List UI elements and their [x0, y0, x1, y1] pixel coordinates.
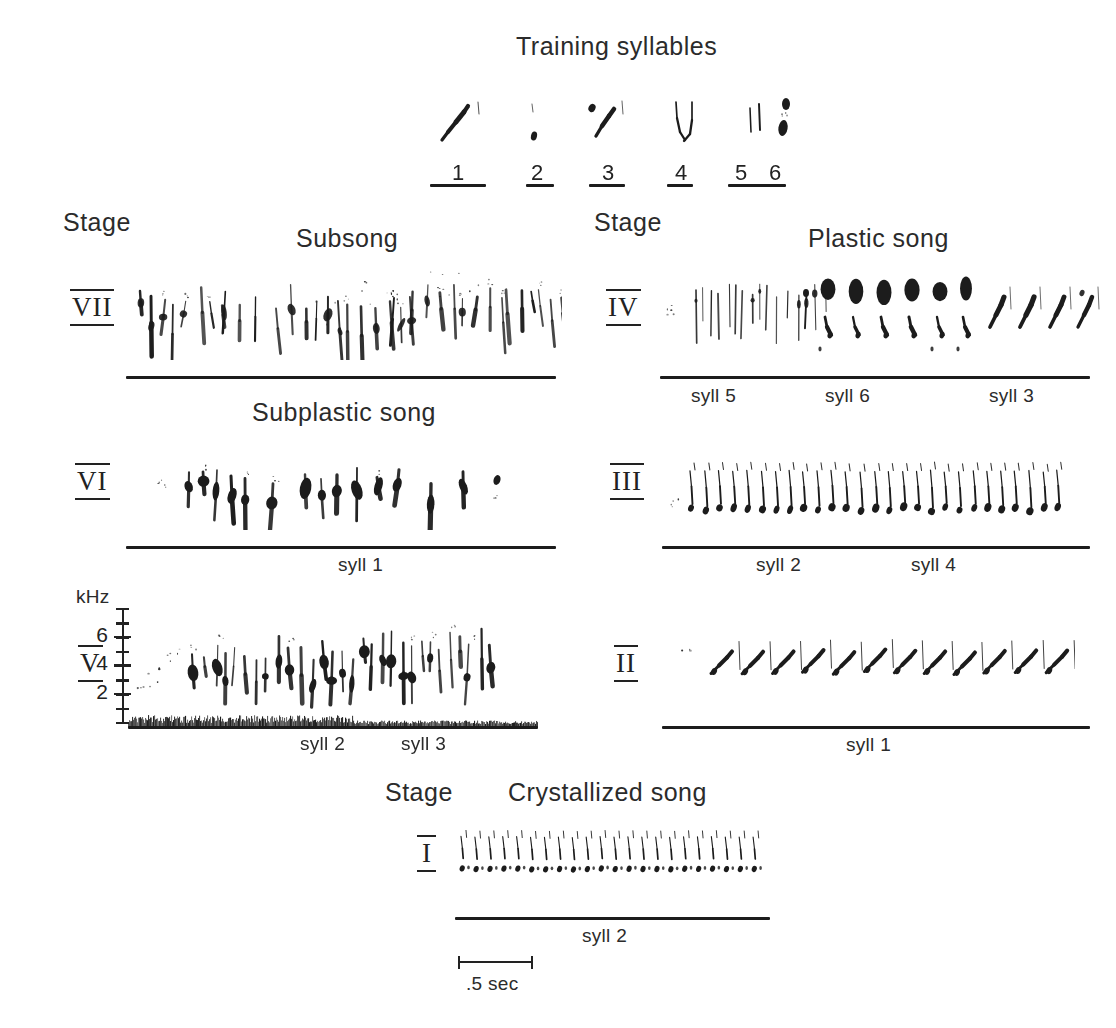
stage-roman-vi: VI — [75, 463, 110, 500]
frequency-axis-label: 2 — [82, 680, 108, 704]
stage-iii-syll-label-2: syll 2 — [756, 554, 801, 576]
left-stage-heading: Stage — [63, 208, 131, 237]
stage-ii-syll-label-1: syll 1 — [846, 734, 891, 756]
stage-v-noise-floor — [128, 713, 538, 727]
stage-i-syll-label-2: syll 2 — [582, 925, 627, 947]
khz-axis-unit-label: kHz — [76, 586, 110, 608]
training-syllable-number-3: 3 — [602, 160, 614, 186]
plastic-song-heading: Plastic song — [808, 224, 949, 253]
stage-v-duration-bar — [128, 726, 538, 729]
stage-label-i: I — [417, 840, 436, 867]
stage-label-vii: VII — [70, 294, 114, 321]
stage-label-iii: III — [610, 468, 644, 495]
training-syllable-rule-56 — [728, 184, 786, 187]
frequency-axis-tick — [116, 708, 129, 710]
training-syllables-spectrogram — [420, 92, 800, 162]
stage-ii-spectrogram — [675, 625, 1075, 705]
stage-vi-syll-label-1: syll 1 — [338, 554, 383, 576]
frequency-axis-tick — [116, 651, 129, 653]
stage-label-ii: II — [614, 650, 638, 677]
stage-roman-iii: III — [610, 463, 644, 500]
training-syllable-rule-1 — [430, 184, 486, 187]
frequency-axis-tick — [116, 608, 129, 610]
training-syllable-number-5: 5 — [735, 160, 747, 186]
training-syllable-number-6: 6 — [769, 160, 781, 186]
stage-vii-duration-bar — [126, 376, 556, 379]
stage-iv-syll-label-6: syll 6 — [825, 385, 870, 407]
stage-iv-syll-label-3: syll 3 — [989, 385, 1034, 407]
stage-roman-i: I — [417, 835, 436, 872]
stage-roman-vii: VII — [70, 289, 114, 326]
training-syllable-rule-4 — [667, 184, 693, 187]
frequency-axis-label: 4 — [82, 651, 108, 675]
stage-i-spectrogram — [455, 827, 775, 889]
training-syllable-rule-3 — [589, 184, 625, 187]
frequency-axis-tick-major — [114, 693, 131, 696]
training-syllable-number-4: 4 — [675, 160, 687, 186]
stage-iii-spectrogram — [668, 455, 1088, 530]
stage-v-spectrogram — [130, 612, 530, 712]
frequency-axis-label: 6 — [82, 623, 108, 647]
stage-roman-ii: II — [614, 645, 638, 682]
stage-label-vi: VI — [75, 468, 110, 495]
subsong-heading: Subsong — [296, 224, 398, 253]
frequency-axis-tick-major — [114, 636, 131, 639]
stage-iv-syll-label-5: syll 5 — [691, 385, 736, 407]
training-syllables-heading: Training syllables — [516, 32, 717, 61]
stage-label-iv: IV — [606, 294, 641, 321]
stage-iii-syll-label-4: syll 4 — [911, 554, 956, 576]
subplastic-song-heading: Subplastic song — [252, 398, 436, 427]
frequency-axis-tick-major — [114, 664, 131, 667]
right-stage-heading: Stage — [594, 208, 662, 237]
stage-roman-iv: IV — [606, 289, 641, 326]
stage-v-syll-label-2: syll 2 — [300, 733, 345, 755]
stage-ii-duration-bar — [662, 726, 1090, 729]
stage-iv-duration-bar — [660, 376, 1090, 379]
crystallized-song-heading: Crystallized song — [508, 778, 707, 807]
stage-vi-spectrogram — [145, 450, 525, 530]
stage-vii-spectrogram — [126, 270, 562, 360]
stage-v-syll-label-3: syll 3 — [401, 733, 446, 755]
stage-i-duration-bar — [455, 917, 770, 920]
frequency-axis-tick — [116, 622, 129, 624]
scale-bar-cap-right — [531, 956, 533, 969]
scale-bar-cap-left — [458, 956, 460, 969]
stage-iv-spectrogram — [660, 265, 1100, 360]
training-syllable-number-1: 1 — [452, 160, 464, 186]
scale-bar-line — [458, 961, 533, 963]
training-syllable-number-2: 2 — [531, 160, 543, 186]
stage-iii-duration-bar — [662, 546, 1090, 549]
frequency-axis-tick — [116, 679, 129, 681]
stage-vi-duration-bar — [126, 546, 556, 549]
training-syllable-rule-2 — [526, 184, 554, 187]
scale-bar-label: .5 sec — [466, 973, 519, 995]
bottom-stage-heading: Stage — [385, 778, 453, 807]
